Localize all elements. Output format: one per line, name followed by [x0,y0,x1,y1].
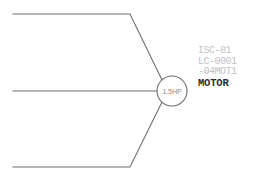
tag-line-device: -04MOT1 [198,67,266,78]
motor-rating-label: 1.5HP [163,87,182,96]
schematic-drawing: 1.5HP [0,0,268,181]
tag-line-system: ISC-01 [198,46,266,57]
equipment-name-label: MOTOR [198,78,266,89]
drawing-canvas: 1.5HP ISC-01 LC-0001 -04MOT1 MOTOR [0,0,268,181]
equipment-tag-block: ISC-01 LC-0001 -04MOT1 MOTOR [198,46,266,89]
upper-feeder-line [13,14,162,80]
lower-feeder-line [13,102,162,167]
